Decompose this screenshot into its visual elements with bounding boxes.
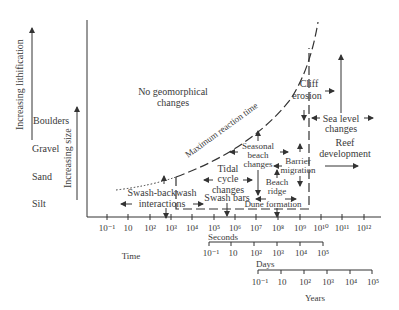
svg-text:10³: 10³ bbox=[322, 277, 334, 287]
size-class-boulders: Boulders bbox=[33, 115, 69, 126]
svg-text:10²: 10² bbox=[250, 248, 262, 258]
reef-label-1: Reef bbox=[336, 137, 356, 148]
size-class-sand: Sand bbox=[32, 171, 52, 182]
no-change-label-1: No geomorphical bbox=[138, 86, 208, 97]
tidal-label-2: cycle bbox=[217, 173, 239, 184]
years-axis bbox=[258, 270, 372, 274]
svg-text:10⁵: 10⁵ bbox=[367, 277, 379, 287]
size-class-silt: Silt bbox=[32, 198, 46, 209]
svg-text:10¹⁰: 10¹⁰ bbox=[313, 223, 329, 233]
svg-text:10: 10 bbox=[278, 277, 288, 287]
barrier-label-2: migration bbox=[281, 165, 316, 175]
svg-text:10⁻¹: 10⁻¹ bbox=[203, 248, 220, 258]
svg-text:10²: 10² bbox=[299, 277, 311, 287]
years-label: Years bbox=[305, 293, 326, 303]
size-label: Increasing size bbox=[62, 128, 73, 188]
svg-text:10⁴: 10⁴ bbox=[186, 223, 198, 233]
svg-text:10: 10 bbox=[124, 223, 134, 233]
svg-text:10³: 10³ bbox=[165, 223, 177, 233]
swash-label-2: interactions bbox=[139, 198, 186, 209]
cliff-label-2: erosion bbox=[292, 90, 321, 101]
svg-text:10⁻¹: 10⁻¹ bbox=[99, 223, 116, 233]
beach-ridge-label-2: ridge bbox=[268, 186, 287, 196]
lithification-axis: Increasing lithification bbox=[14, 28, 32, 140]
reef-label-2: development bbox=[319, 148, 371, 159]
lithification-label: Increasing lithification bbox=[14, 39, 25, 130]
svg-text:10⁴: 10⁴ bbox=[295, 248, 307, 258]
svg-text:10: 10 bbox=[229, 248, 239, 258]
days-tick-labels: 10⁻¹ 10 10² 10³ 10⁴ 10⁵ bbox=[203, 248, 329, 258]
coastal-timescale-diagram: Increasing lithification Increasing size… bbox=[0, 0, 399, 310]
tidal-label-3: changes bbox=[212, 184, 244, 195]
svg-text:10⁻¹: 10⁻¹ bbox=[252, 277, 269, 287]
svg-text:10²: 10² bbox=[144, 223, 156, 233]
svg-text:10⁴: 10⁴ bbox=[345, 277, 357, 287]
svg-text:10⁷: 10⁷ bbox=[250, 223, 262, 233]
time-label: Time bbox=[122, 251, 141, 261]
swash-label-1: Swash-backwash bbox=[128, 187, 197, 198]
size-class-gravel: Gravel bbox=[32, 143, 59, 154]
svg-text:10¹²: 10¹² bbox=[357, 223, 372, 233]
cliff-label-1: Cliff bbox=[300, 78, 319, 89]
svg-text:10⁸: 10⁸ bbox=[272, 223, 284, 233]
dune-label: Dune formation bbox=[244, 199, 302, 209]
svg-text:10⁵: 10⁵ bbox=[317, 248, 329, 258]
svg-text:10⁹: 10⁹ bbox=[294, 223, 306, 233]
days-axis bbox=[209, 242, 323, 246]
days-label: Days bbox=[256, 259, 275, 269]
seasonal-label-3: changes bbox=[244, 159, 273, 169]
no-change-label-2: changes bbox=[157, 97, 189, 108]
years-tick-labels: 10⁻¹ 10 10² 10³ 10⁴ 10⁵ bbox=[252, 277, 379, 287]
sea-level-label-2: changes bbox=[325, 123, 357, 134]
seconds-label: Seconds bbox=[208, 232, 238, 242]
svg-text:10¹¹: 10¹¹ bbox=[335, 223, 350, 233]
svg-text:10³: 10³ bbox=[272, 248, 284, 258]
